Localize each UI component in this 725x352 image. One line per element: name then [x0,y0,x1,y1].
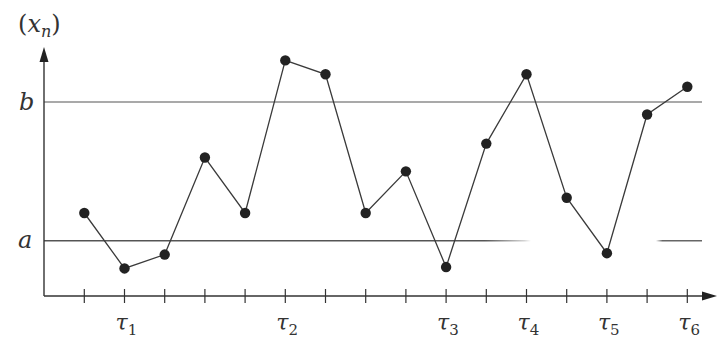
tau-label-6: τ6 [678,310,700,339]
tau-label-5: τ5 [598,310,620,339]
data-point-marker [200,152,210,162]
data-point-marker [521,69,531,79]
x-tick-labels: τ1τ2τ3τ4τ5τ6 [116,310,701,339]
data-point-marker [642,109,652,119]
tau-label-4: τ4 [518,310,540,339]
data-point-marker [682,82,692,92]
tau-label-1: τ1 [116,310,138,339]
data-point-marker [602,248,612,258]
tau-label-2: τ2 [276,310,298,339]
series-line [84,60,687,268]
data-point-marker [240,208,250,218]
data-point-marker [401,166,411,176]
data-point-marker [481,138,491,148]
y-axis-label: (xn) [18,10,61,41]
data-point-marker [441,262,451,272]
chart-canvas: (xn) b a τ1τ2τ3τ4τ5τ6 [0,0,725,352]
data-point-marker [280,55,290,65]
data-point-marker [160,249,170,259]
data-point-marker [79,208,89,218]
ref-label-a: a [18,226,32,254]
data-point-marker [119,263,129,273]
data-point-marker [562,193,572,203]
data-point-marker [320,69,330,79]
ref-label-b: b [19,88,34,116]
data-point-marker [361,208,371,218]
x-axis-arrow-icon [702,292,717,301]
y-axis-arrow-icon [40,47,49,62]
tau-label-3: τ3 [437,310,459,339]
